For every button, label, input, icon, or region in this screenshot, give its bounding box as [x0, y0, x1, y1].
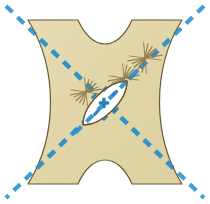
diagram-figure: Astroid plate with diagonal dashed axes,… [0, 0, 210, 204]
diagram-canvas [0, 0, 210, 204]
